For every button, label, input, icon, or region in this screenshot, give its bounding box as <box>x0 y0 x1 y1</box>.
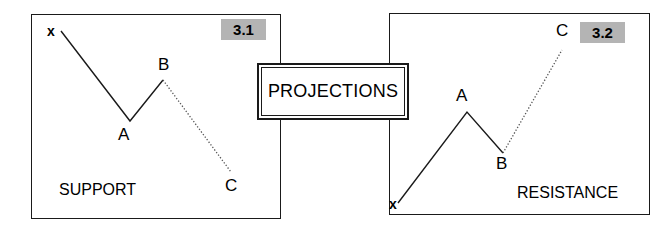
support-point-label-a: A <box>118 126 129 143</box>
projections-box: PROJECTIONS <box>257 63 409 120</box>
support-point-label-c: C <box>225 177 237 194</box>
resistance-caption: RESISTANCE <box>517 185 618 201</box>
support-caption: SUPPORT <box>59 182 136 198</box>
resistance-point-label-a: A <box>456 87 467 104</box>
support-point-label-b: B <box>158 56 169 73</box>
figure-number-badge-3-1: 3.1 <box>221 19 266 40</box>
projections-label: PROJECTIONS <box>268 81 398 102</box>
resistance-point-label-b: B <box>496 155 507 172</box>
resistance-point-label-c: C <box>556 22 568 39</box>
diagram-canvas: 3.1 3.2 x A B C x A B C SUPPORT RESISTAN… <box>0 0 668 233</box>
support-point-label-x: x <box>47 23 55 40</box>
projections-box-inner-border: PROJECTIONS <box>261 67 405 116</box>
figure-number-badge-3-2: 3.2 <box>580 22 625 43</box>
resistance-point-label-x: x <box>389 196 397 213</box>
